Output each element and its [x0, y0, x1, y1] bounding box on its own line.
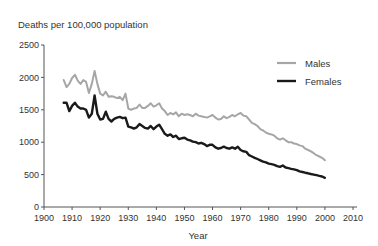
x-tick-label: 1950 — [174, 213, 194, 223]
x-tick-label: 1990 — [287, 213, 307, 223]
x-tick-label: 1960 — [203, 213, 223, 223]
x-tick-label: 1930 — [118, 213, 138, 223]
x-axis: 1900191019201930194019501960197019801990… — [34, 207, 363, 223]
series-line-males — [64, 71, 325, 160]
y-tick-label: 2500 — [19, 40, 39, 50]
legend: Males Females — [277, 58, 342, 87]
x-tick-label: 1900 — [34, 213, 54, 223]
y-axis: 05001000150020002500 — [19, 40, 44, 212]
y-tick-label: 0 — [34, 202, 39, 212]
x-tick-label: 1970 — [231, 213, 251, 223]
x-tick-label: 2000 — [315, 213, 335, 223]
x-tick-label: 1940 — [146, 213, 166, 223]
y-tick-label: 500 — [24, 170, 39, 180]
line-chart: Deaths per 100,000 population 0500100015… — [0, 0, 378, 246]
legend-label-males: Males — [305, 58, 331, 69]
x-tick-label: 2010 — [343, 213, 363, 223]
legend-label-females: Females — [305, 76, 342, 87]
x-tick-label: 1920 — [90, 213, 110, 223]
x-axis-title: Year — [188, 230, 207, 241]
series-layer — [64, 71, 325, 178]
x-tick-label: 1980 — [259, 213, 279, 223]
y-tick-label: 1000 — [19, 137, 39, 147]
y-tick-label: 2000 — [19, 73, 39, 83]
y-axis-title: Deaths per 100,000 population — [18, 19, 148, 30]
y-tick-label: 1500 — [19, 105, 39, 115]
chart-canvas: Deaths per 100,000 population 0500100015… — [0, 0, 378, 246]
series-line-females — [64, 96, 325, 178]
x-tick-label: 1910 — [62, 213, 82, 223]
